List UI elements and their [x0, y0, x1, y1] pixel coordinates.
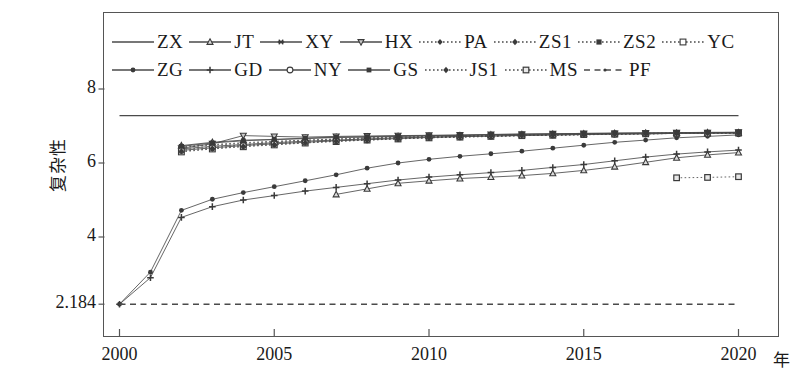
series-zg-dip [333, 149, 741, 196]
legend-plus-icon [187, 60, 233, 80]
legend-label-zx: ZX [157, 31, 183, 53]
legend: ZXJTXYHXPAZS1ZS2YC ZGGDNYGSJS1MSPF [110, 28, 775, 84]
legend-diamond-filled-icon [492, 32, 538, 52]
legend-label-xy: XY [305, 31, 333, 53]
legend-square-filled-icon [576, 32, 622, 52]
legend-label-yc: YC [707, 31, 734, 53]
legend-item-zs2[interactable]: ZS2 [576, 31, 656, 53]
legend-item-gs[interactable]: GS [346, 59, 418, 81]
legend-square-dotted-icon [503, 60, 549, 80]
legend-circle-small-icon [110, 60, 156, 80]
chart-root: 复杂性 8642.184 20002005201020152020 年 ZXJT… [0, 0, 797, 377]
legend-label-gs: GS [393, 59, 418, 81]
legend-item-zx[interactable]: ZX [110, 31, 183, 53]
legend-star-icon [258, 32, 304, 52]
legend-square-open-icon [660, 32, 706, 52]
legend-item-ny[interactable]: NY [267, 59, 342, 81]
legend-circle-open-icon [267, 60, 313, 80]
legend-label-ms: MS [550, 59, 578, 81]
legend-label-pa: PA [464, 31, 488, 53]
legend-none-icon [110, 32, 156, 52]
legend-item-pa[interactable]: PA [417, 31, 488, 53]
legend-label-pf: PF [629, 59, 651, 81]
legend-row-1: ZXJTXYHXPAZS1ZS2YC [110, 28, 775, 56]
legend-row-2: ZGGDNYGSJS1MSPF [110, 56, 775, 84]
legend-item-ms[interactable]: MS [503, 59, 578, 81]
legend-label-ny: NY [314, 59, 342, 81]
legend-item-gd[interactable]: GD [187, 59, 262, 81]
legend-diamond-icon [417, 32, 463, 52]
legend-triangle-down-icon [338, 32, 384, 52]
series-ms [674, 174, 742, 181]
series-zg [117, 132, 741, 306]
legend-item-xy[interactable]: XY [258, 31, 333, 53]
series-gd [116, 147, 742, 308]
legend-item-jt[interactable]: JT [187, 31, 254, 53]
legend-item-js1[interactable]: JS1 [423, 59, 499, 81]
legend-label-js1: JS1 [470, 59, 499, 81]
legend-item-zg[interactable]: ZG [110, 59, 183, 81]
legend-item-yc[interactable]: YC [660, 31, 734, 53]
legend-diamond-mid-icon [423, 60, 469, 80]
legend-label-zs1: ZS1 [539, 31, 572, 53]
legend-triangle-up-icon [187, 32, 233, 52]
legend-square-tiny-icon [346, 60, 392, 80]
legend-item-zs1[interactable]: ZS1 [492, 31, 572, 53]
legend-dot-icon [582, 60, 628, 80]
legend-label-gd: GD [234, 59, 262, 81]
legend-item-hx[interactable]: HX [338, 31, 413, 53]
legend-item-pf[interactable]: PF [582, 59, 651, 81]
legend-label-jt: JT [234, 31, 254, 53]
legend-label-hx: HX [385, 31, 413, 53]
legend-label-zs2: ZS2 [623, 31, 656, 53]
legend-label-zg: ZG [157, 59, 183, 81]
